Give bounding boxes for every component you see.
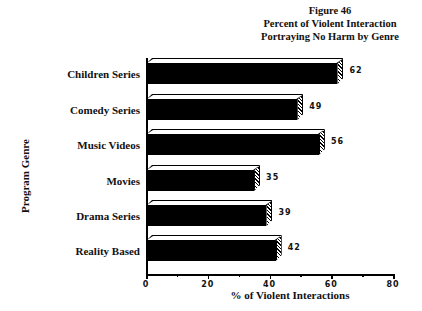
x-tick [393, 274, 395, 279]
x-tick-label: 0 [131, 280, 161, 289]
bar [146, 165, 260, 191]
bar-front-face [146, 135, 319, 155]
chart-title-line-2: Percent of Violent Interaction [250, 17, 410, 30]
value-label: 39 [278, 208, 291, 217]
x-tick-label: 60 [316, 280, 346, 289]
x-axis-label: % of Violent Interactions [200, 289, 380, 301]
bar-front-face [146, 206, 266, 226]
category-label: Drama Series [76, 210, 140, 222]
bar [146, 129, 325, 155]
chart-title-line-3: Portraying No Harm by Genre [250, 30, 410, 43]
bar [146, 58, 343, 84]
chart-title: Figure 46 Percent of Violent Interaction… [250, 4, 410, 43]
x-tick-label: 80 [378, 280, 408, 289]
category-label: Movies [106, 175, 140, 187]
x-minor-tick [177, 274, 179, 277]
category-label: Children Series [67, 68, 140, 80]
bar-front-face [146, 64, 337, 84]
bar-front-face [146, 241, 276, 261]
x-tick-label: 20 [193, 280, 223, 289]
x-tick [331, 274, 333, 279]
bar-front-face [146, 100, 297, 120]
value-label: 56 [331, 137, 344, 146]
value-label: 35 [266, 173, 279, 182]
y-axis-line [146, 58, 148, 275]
bar-front-face [146, 171, 254, 191]
x-minor-tick [239, 274, 241, 277]
x-minor-tick [362, 274, 364, 277]
x-tick [270, 274, 272, 279]
bar [146, 94, 303, 120]
x-tick [146, 274, 148, 279]
bar [146, 200, 272, 226]
chart-title-line-1: Figure 46 [250, 4, 410, 17]
x-tick-label: 40 [255, 280, 285, 289]
x-tick [208, 274, 210, 279]
value-label: 42 [288, 243, 301, 252]
y-axis-label: Program Genre [19, 121, 31, 231]
category-label: Comedy Series [70, 104, 140, 116]
category-label: Music Videos [77, 139, 140, 151]
bar [146, 235, 282, 261]
value-label: 49 [309, 102, 322, 111]
value-label: 62 [349, 66, 362, 75]
x-minor-tick [300, 274, 302, 277]
category-label: Reality Based [76, 245, 140, 257]
